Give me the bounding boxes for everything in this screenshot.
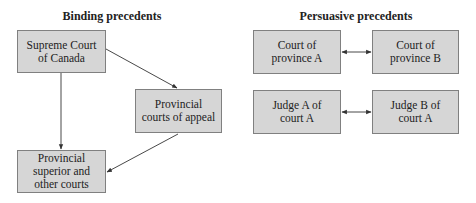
superior-courts-box: Provincial superior and other courts	[17, 150, 106, 193]
box-label-line: Provincial	[155, 98, 202, 111]
box-label-line: court A	[398, 112, 432, 125]
judge-b-box: Judge B of court A	[372, 90, 459, 134]
binding-precedents-heading: Binding precedents	[22, 9, 202, 24]
box-label-line: province A	[272, 52, 323, 65]
box-label-line: Court of	[396, 39, 435, 52]
box-label-line: superior and	[33, 165, 90, 178]
courts-of-appeal-box: Provincial courts of appeal	[135, 89, 222, 133]
arrow-appeal-to-superior	[107, 134, 178, 172]
supreme-court-box: Supreme Court of Canada	[17, 30, 106, 73]
box-label-line: court A	[280, 112, 314, 125]
judge-a-box: Judge A of court A	[253, 90, 341, 134]
box-label-line: Judge B of	[391, 99, 441, 112]
box-label-line: of Canada	[38, 52, 85, 65]
persuasive-precedents-heading: Persuasive precedents	[266, 9, 446, 24]
box-label-line: other courts	[34, 178, 89, 191]
box-label-line: province B	[390, 52, 441, 65]
court-province-b-box: Court of province B	[372, 30, 459, 74]
arrow-supreme-to-appeal	[106, 49, 177, 88]
box-label-line: Provincial	[38, 152, 85, 165]
box-label-line: Court of	[278, 39, 317, 52]
precedent-diagram: Binding precedents Persuasive precedents…	[0, 0, 476, 203]
box-label-line: courts of appeal	[142, 111, 215, 124]
box-label-line: Judge A of	[272, 99, 321, 112]
court-province-a-box: Court of province A	[253, 30, 341, 74]
box-label-line: Supreme Court	[27, 39, 97, 52]
